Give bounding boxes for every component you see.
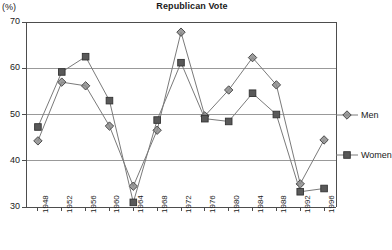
x-tick-label: 1976 [209, 195, 217, 213]
y-tick-label: 40 [2, 156, 20, 165]
x-tick-label: 1968 [161, 195, 169, 213]
x-tick-label: 1952 [66, 195, 74, 213]
legend-label-men: Men [361, 111, 379, 120]
data-point-women-1984 [249, 90, 256, 97]
data-point-women-1980 [225, 118, 232, 125]
x-tick-label: 1948 [42, 195, 50, 213]
x-tick-label: 1984 [257, 195, 265, 213]
legend-label-women: Women [361, 151, 392, 160]
y-tick-label: 30 [2, 202, 20, 211]
data-point-men-1972 [177, 28, 185, 36]
data-point-women-1996 [321, 185, 328, 192]
legend-marker-women [344, 152, 351, 159]
data-point-women-1976 [202, 115, 209, 122]
x-tick-label: 1988 [280, 195, 288, 213]
y-tick-label: 60 [2, 63, 20, 72]
x-tick-label: 1960 [113, 195, 121, 213]
data-point-men-1996 [320, 136, 328, 144]
data-point-men-1956 [81, 82, 89, 90]
y-tick-label: 50 [2, 110, 20, 119]
legend-marker-men [343, 111, 351, 119]
data-point-women-1948 [35, 124, 42, 131]
data-point-women-1956 [82, 53, 89, 60]
data-point-men-1960 [105, 122, 113, 130]
x-tick-label: 1992 [304, 195, 312, 213]
x-tick-label: 1980 [233, 195, 241, 213]
x-tick-label: 1956 [90, 195, 98, 213]
series-line-men [38, 32, 324, 186]
series-line-women [38, 57, 324, 203]
data-point-women-1960 [106, 97, 113, 104]
x-tick-label: 1964 [137, 195, 145, 213]
data-point-men-1948 [34, 137, 42, 145]
data-point-women-1972 [178, 59, 185, 66]
data-point-women-1988 [273, 111, 280, 118]
data-point-women-1952 [58, 69, 65, 76]
x-tick-label: 1996 [328, 195, 336, 213]
y-tick-label: 70 [2, 17, 20, 26]
data-point-women-1968 [154, 117, 161, 124]
x-tick-label: 1972 [185, 195, 193, 213]
